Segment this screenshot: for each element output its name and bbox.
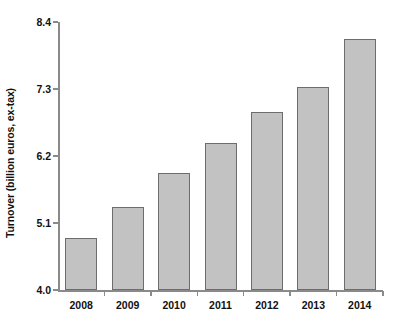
bar: [251, 112, 283, 290]
y-tick-label: 5.1: [3, 218, 51, 229]
y-tick-label: 6.2: [3, 151, 51, 162]
x-tick-label: 2014: [335, 300, 385, 311]
y-axis-line: [58, 22, 60, 291]
y-tick-mark: [53, 155, 58, 157]
x-tick-mark: [243, 291, 245, 296]
y-tick-mark: [53, 21, 58, 23]
x-tick-mark: [382, 291, 384, 296]
x-tick-label: 2012: [242, 300, 292, 311]
x-tick-mark: [150, 291, 152, 296]
y-axis-title: Turnover (billion euros, ex-tax): [0, 0, 20, 326]
y-tick-mark: [53, 289, 58, 291]
x-tick-mark: [336, 291, 338, 296]
x-tick-mark: [104, 291, 106, 296]
bar: [297, 87, 329, 290]
y-tick-label: 7.3: [3, 84, 51, 95]
y-tick-mark: [53, 222, 58, 224]
bar: [112, 207, 144, 290]
x-tick-mark: [197, 291, 199, 296]
x-tick-label: 2008: [56, 300, 106, 311]
y-tick-label: 4.0: [3, 285, 51, 296]
bar: [205, 143, 237, 290]
x-axis-line: [58, 290, 383, 292]
bar-chart: Turnover (billion euros, ex-tax) 4.05.16…: [0, 0, 403, 326]
x-tick-label: 2010: [149, 300, 199, 311]
x-tick-label: 2009: [103, 300, 153, 311]
x-tick-label: 2013: [288, 300, 338, 311]
x-tick-mark: [289, 291, 291, 296]
bar: [158, 173, 190, 290]
bar: [344, 39, 376, 290]
y-tick-label: 8.4: [3, 17, 51, 28]
x-tick-label: 2011: [196, 300, 246, 311]
bar: [65, 238, 97, 290]
y-tick-mark: [53, 88, 58, 90]
